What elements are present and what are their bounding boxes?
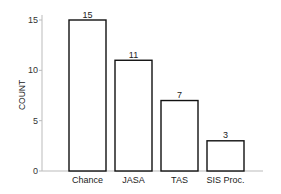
- data-label: 15: [82, 10, 92, 20]
- bar-chart: 051015 15Chance11JASA7TAS3SIS Proc. COUN…: [0, 0, 281, 194]
- data-label: 11: [129, 50, 138, 60]
- bars: 15Chance11JASA7TAS3SIS Proc.: [69, 10, 245, 186]
- y-axis-label: COUNT: [17, 80, 27, 110]
- x-tick-label: JASA: [122, 175, 145, 185]
- data-label: 3: [223, 130, 228, 140]
- bar-chance: [69, 20, 106, 171]
- bar-jasa: [115, 60, 152, 171]
- y-tick-label: 0: [33, 166, 38, 176]
- bar-sis-proc: [207, 141, 244, 171]
- y-tick-label: 5: [33, 116, 38, 126]
- x-tick-label: Chance: [72, 175, 103, 185]
- data-label: 7: [177, 90, 182, 100]
- x-tick-label: TAS: [171, 175, 188, 185]
- y-tick-label: 15: [28, 15, 38, 25]
- x-tick-label: SIS Proc.: [206, 175, 244, 185]
- y-tick-label: 10: [28, 65, 38, 75]
- bar-tas: [161, 101, 198, 171]
